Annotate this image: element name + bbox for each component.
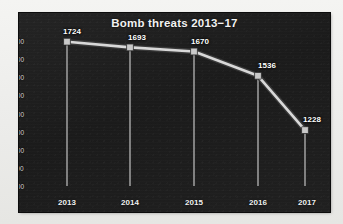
y-axis-tick-label: 1700	[19, 56, 49, 63]
y-axis-tick-label: 1300	[19, 128, 49, 135]
x-axis-tick-label: 2015	[185, 198, 203, 207]
data-point-marker	[64, 38, 71, 45]
x-axis-tick-label: 2014	[121, 198, 139, 207]
x-axis-tick-label: 2017	[298, 198, 316, 207]
x-axis-tick-label: 2016	[249, 198, 267, 207]
y-axis-tick-label: 1400	[19, 110, 49, 117]
x-axis-tick-label: 2013	[58, 198, 76, 207]
y-axis-tick-label: 1800	[19, 38, 49, 45]
y-axis-tick-label: 1200	[19, 146, 49, 153]
data-point-label: 1228	[303, 115, 321, 124]
series-line-outline	[67, 42, 305, 130]
data-point-marker	[127, 44, 134, 51]
data-point-label: 1693	[128, 33, 146, 42]
data-point-label: 1536	[258, 61, 276, 70]
data-point-marker	[255, 72, 262, 79]
data-point-label: 1724	[63, 27, 81, 36]
chart-plot-area	[19, 13, 330, 212]
data-point-marker	[302, 127, 309, 134]
chart-page: Bomb threats 2013−17 1800 1700 1600 1500…	[0, 0, 343, 224]
chart-panel: Bomb threats 2013−17 1800 1700 1600 1500…	[19, 13, 330, 212]
y-axis-tick-label: 1000	[19, 183, 49, 190]
y-axis-tick-label: 1500	[19, 92, 49, 99]
y-axis-tick-label: 1100	[19, 164, 49, 171]
data-point-label: 1670	[191, 37, 209, 46]
data-point-marker	[191, 48, 198, 55]
y-axis-tick-label: 1600	[19, 74, 49, 81]
